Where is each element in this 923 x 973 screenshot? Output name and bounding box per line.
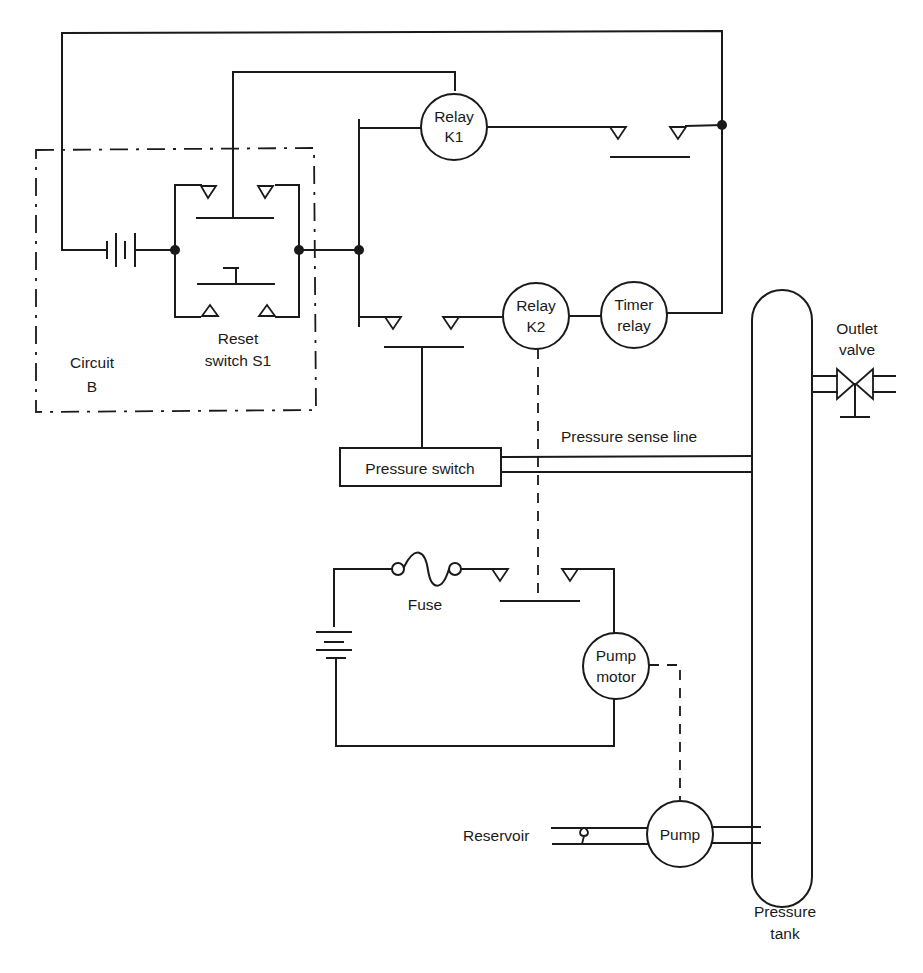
- reset-switch-label: Reset: [218, 330, 259, 347]
- outer-loop-wire: [62, 31, 722, 313]
- relay-k2-sub-label: K2: [527, 318, 546, 335]
- relay-k2-label: Relay: [516, 297, 556, 314]
- motor-pump-link: [649, 665, 680, 800]
- timer-relay-label: Timer: [614, 296, 653, 313]
- pressure-tank-sub-label: tank: [770, 925, 800, 942]
- timer-relay-sub-label: relay: [617, 317, 651, 334]
- pressure-switch-label: Pressure switch: [365, 460, 474, 477]
- reservoir-pipe: Reservoir: [463, 827, 649, 844]
- motor-circuit-wire: [334, 569, 614, 746]
- junction-node: [170, 245, 180, 255]
- pressure-sense-line-label: Pressure sense line: [561, 428, 697, 445]
- pressure-switch: Pressure switch: [340, 448, 501, 486]
- pump-motor: Pump motor: [583, 633, 649, 699]
- outlet-valve: Outlet valve: [812, 320, 895, 417]
- battery-motor-icon: [317, 632, 351, 658]
- fuse-label: Fuse: [408, 596, 442, 613]
- outlet-valve-sub-label: valve: [839, 341, 875, 358]
- reservoir-label: Reservoir: [463, 827, 529, 844]
- battery-b-icon: [62, 234, 175, 266]
- relay-k2: Relay K2: [503, 283, 569, 349]
- k1-contacts: [487, 125, 722, 157]
- circuit-diagram: Relay K1 Relay K2 Timer relay Pressure s…: [0, 0, 923, 973]
- relay-k1: Relay K1: [421, 94, 487, 160]
- circuit-b-label: Circuit: [70, 354, 115, 371]
- pressure-tank-label: Pressure: [754, 903, 816, 920]
- pressure-tank: Pressure tank: [752, 290, 816, 942]
- pressure-switch-contacts: [385, 317, 502, 450]
- bus-wire: [299, 120, 421, 326]
- reset-switch-sub-label: switch S1: [205, 352, 271, 369]
- pump: Pump: [647, 801, 713, 867]
- timer-relay: Timer relay: [601, 282, 667, 348]
- relay-k1-label: Relay: [434, 108, 474, 125]
- outlet-valve-label: Outlet: [836, 320, 878, 337]
- relay-k1-sub-label: K1: [445, 128, 464, 145]
- pump-motor-sub-label: motor: [596, 668, 636, 685]
- fuse-icon: Fuse: [392, 553, 461, 613]
- circuit-b-sub-label: B: [87, 378, 97, 395]
- pump-motor-label: Pump: [596, 647, 637, 664]
- pump-label: Pump: [660, 826, 701, 843]
